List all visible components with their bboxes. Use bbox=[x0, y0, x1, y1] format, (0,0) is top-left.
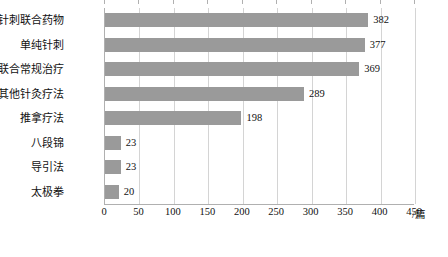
category-label: 针刺联合常规治疗 bbox=[0, 58, 64, 80]
bar[interactable] bbox=[105, 38, 365, 52]
bar[interactable] bbox=[105, 160, 121, 174]
x-axis-unit-label: /篇 bbox=[412, 206, 425, 221]
bar-value-label: 23 bbox=[126, 157, 137, 177]
axis-tick bbox=[345, 0, 346, 4]
category-label: 八段锦 bbox=[0, 132, 64, 154]
plot-area: 382针刺联合药物377单纯针刺369针刺联合常规治疗289其他针灸疗法198推… bbox=[104, 8, 414, 204]
category-label: 单纯针刺 bbox=[0, 34, 64, 56]
bar[interactable] bbox=[105, 111, 241, 125]
bar-row: 23导引法 bbox=[105, 155, 414, 180]
axis-tick bbox=[276, 0, 277, 4]
bar-row: 289其他针灸疗法 bbox=[105, 82, 414, 107]
bar-value-label: 377 bbox=[370, 35, 386, 55]
axis-tick bbox=[207, 0, 208, 4]
bar[interactable] bbox=[105, 185, 119, 199]
bar[interactable] bbox=[105, 136, 121, 150]
bar-value-label: 369 bbox=[364, 59, 380, 79]
bar-row: 377单纯针刺 bbox=[105, 33, 414, 58]
bar-row: 198推拿疗法 bbox=[105, 106, 414, 131]
category-label: 其他针灸疗法 bbox=[0, 83, 64, 105]
bar-row: 23八段锦 bbox=[105, 131, 414, 156]
bar-value-label: 289 bbox=[309, 84, 325, 104]
x-axis bbox=[104, 204, 414, 205]
axis-tick bbox=[138, 0, 139, 4]
axis-tick bbox=[104, 0, 105, 4]
axis-tick bbox=[414, 0, 415, 4]
bar-row: 20太极拳 bbox=[105, 180, 414, 205]
gridline bbox=[415, 8, 416, 204]
axis-tick bbox=[311, 0, 312, 4]
bar-chart: 382针刺联合药物377单纯针刺369针刺联合常规治疗289其他针灸疗法198推… bbox=[0, 0, 448, 257]
bar[interactable] bbox=[105, 62, 359, 76]
bar-value-label: 20 bbox=[124, 182, 135, 202]
bar-value-label: 23 bbox=[126, 133, 137, 153]
bar-row: 369针刺联合常规治疗 bbox=[105, 57, 414, 82]
category-label: 太极拳 bbox=[0, 181, 64, 203]
category-label: 导引法 bbox=[0, 156, 64, 178]
axis-tick bbox=[173, 0, 174, 4]
axis-tick bbox=[242, 0, 243, 4]
bar-value-label: 198 bbox=[246, 108, 262, 128]
bar-series: 382针刺联合药物377单纯针刺369针刺联合常规治疗289其他针灸疗法198推… bbox=[105, 8, 414, 204]
bar-value-label: 382 bbox=[373, 10, 389, 30]
bar-row: 382针刺联合药物 bbox=[105, 8, 414, 33]
bar[interactable] bbox=[105, 87, 304, 101]
bar[interactable] bbox=[105, 13, 368, 27]
category-label: 推拿疗法 bbox=[0, 107, 64, 129]
category-label: 针刺联合药物 bbox=[0, 9, 64, 31]
axis-tick bbox=[380, 0, 381, 4]
